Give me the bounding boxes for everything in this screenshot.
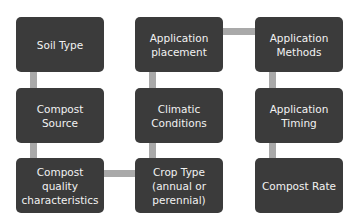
connector-quality-to-crop bbox=[104, 170, 135, 177]
node-compost-source: Compost Source bbox=[16, 88, 104, 143]
connector-climatic-to-placement bbox=[149, 72, 156, 88]
node-compost-rate: Compost Rate bbox=[255, 158, 343, 213]
node-label: Application Methods bbox=[270, 31, 329, 59]
node-climatic-conditions: Climatic Conditions bbox=[135, 88, 223, 143]
node-label: Crop Type (annual or perennial) bbox=[152, 165, 206, 207]
node-application-methods: Application Methods bbox=[255, 17, 343, 72]
connector-timing-to-rate bbox=[269, 143, 276, 158]
node-label: Compost Source bbox=[37, 102, 84, 130]
connector-methods-to-timing bbox=[269, 72, 276, 88]
node-application-timing: Application Timing bbox=[255, 88, 343, 143]
node-soil-type: Soil Type bbox=[16, 17, 104, 72]
node-label: Compost quality characteristics bbox=[22, 165, 99, 207]
node-label: Compost Rate bbox=[262, 179, 336, 193]
connector-placement-to-methods bbox=[223, 28, 255, 35]
connector-source-to-quality bbox=[30, 143, 37, 158]
node-crop-type: Crop Type (annual or perennial) bbox=[135, 158, 223, 213]
node-application-placement: Application placement bbox=[135, 17, 223, 72]
node-label: Soil Type bbox=[37, 38, 83, 52]
node-label: Application placement bbox=[150, 31, 209, 59]
node-compost-quality: Compost quality characteristics bbox=[16, 158, 104, 213]
connector-soil-to-source bbox=[30, 72, 37, 88]
node-label: Application Timing bbox=[270, 102, 329, 130]
node-label: Climatic Conditions bbox=[151, 102, 207, 130]
connector-crop-to-climatic bbox=[149, 143, 156, 158]
